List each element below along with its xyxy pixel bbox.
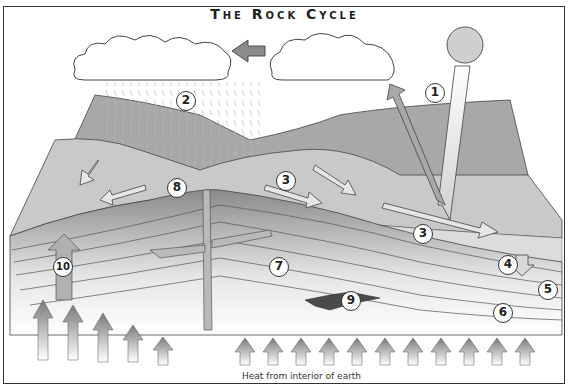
label-4: 4	[498, 255, 518, 275]
label-10: 10	[53, 257, 73, 277]
label-3a: 3	[276, 171, 296, 191]
cloud-right	[270, 33, 394, 80]
label-3b: 3	[413, 224, 433, 244]
wind-arrow	[232, 40, 265, 62]
label-2: 2	[176, 91, 196, 111]
heat-arrows-right	[235, 338, 535, 365]
label-8: 8	[167, 178, 187, 198]
label-6: 6	[493, 303, 513, 323]
rock-cycle-illustration	[0, 0, 569, 389]
cloud-left	[74, 35, 231, 80]
heat-caption: Heat from interior of earth	[242, 371, 361, 381]
label-5: 5	[538, 280, 558, 300]
label-1: 1	[425, 83, 445, 103]
label-9: 9	[341, 291, 361, 311]
label-7: 7	[269, 257, 289, 277]
sun-icon	[447, 27, 483, 63]
